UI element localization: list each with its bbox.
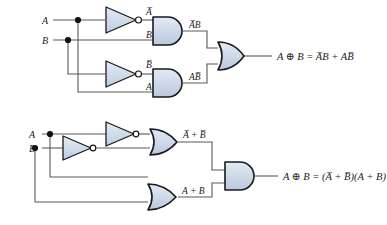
label-a-input: A — [145, 82, 152, 92]
junction-dot-a — [75, 17, 81, 23]
logic-diagram-svg: A B A̅ B B̅ A A̅B AB̅ A ⊕ B = A̅B + AB̅ — [0, 0, 387, 225]
and-gate-output — [225, 162, 254, 190]
label-not-a: A̅ — [145, 7, 152, 17]
input-label-a: A — [41, 15, 49, 26]
inverter-bubble-icon — [133, 131, 139, 137]
junction-dot-b — [65, 37, 71, 43]
junction-dot-a — [47, 131, 53, 137]
inverter-bubble-icon — [136, 71, 142, 77]
figure-canvas: A B A̅ B B̅ A A̅B AB̅ A ⊕ B = A̅B + AB̅ — [0, 0, 387, 225]
input-label-a: A — [28, 129, 36, 140]
label-and-bottom-output: AB̅ — [188, 72, 201, 82]
label-or-top-output: A̅ + B̅ — [182, 130, 206, 140]
label-not-b: B̅ — [146, 60, 152, 70]
input-label-b: B — [42, 35, 48, 46]
label-or-bottom-output: A + B — [181, 186, 205, 196]
inverter-bubble-icon — [136, 17, 142, 23]
output-expression-bottom: A ⊕ B = (A̅ + B̅)(A + B) — [282, 171, 386, 183]
and-gate-bottom — [153, 69, 182, 97]
label-b-input: B — [146, 30, 152, 40]
inverter-bubble-icon — [90, 145, 96, 151]
label-and-top-output: A̅B — [188, 20, 201, 30]
input-label-b: B — [29, 143, 35, 154]
and-gate-top — [153, 17, 182, 45]
output-expression-top: A ⊕ B = A̅B + AB̅ — [276, 51, 354, 62]
